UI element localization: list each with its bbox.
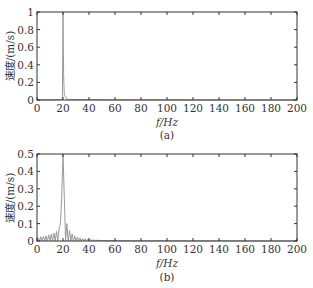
- x-tick-label: 140: [209, 243, 229, 255]
- panel-a-ticks: [37, 12, 297, 100]
- y-tick-label: 0.2: [17, 76, 34, 88]
- panel-b-y-axis-label: 速度/(m/s): [4, 173, 16, 224]
- figure: 020406080100120140160180200 00.20.40.60.…: [0, 0, 313, 288]
- y-tick-label: 0.8: [17, 24, 34, 36]
- y-tick-label: 0.4: [17, 165, 34, 177]
- x-tick-label: 60: [108, 243, 121, 255]
- x-tick-label: 40: [82, 102, 95, 114]
- y-tick-label: 0.4: [17, 59, 34, 71]
- x-tick-label: 80: [134, 243, 147, 255]
- panel-b-x-axis-label: f/Hz: [155, 257, 179, 269]
- panel-b-caption: (b): [160, 271, 175, 283]
- x-tick-label: 20: [56, 102, 69, 114]
- x-tick-label: 100: [157, 243, 177, 255]
- panel-a-y-tick-labels: 00.20.40.60.81: [17, 6, 34, 106]
- x-tick-label: 0: [34, 102, 41, 114]
- panel-a-chart: 020406080100120140160180200 00.20.40.60.…: [4, 6, 307, 141]
- x-tick-label: 180: [261, 243, 281, 255]
- x-tick-label: 120: [183, 102, 203, 114]
- x-tick-label: 200: [287, 102, 307, 114]
- panel-b-y-tick-labels: 00.10.20.30.40.5: [17, 148, 34, 247]
- y-tick-label: 0.2: [17, 200, 34, 212]
- panel-b-x-tick-labels: 020406080100120140160180200: [34, 243, 307, 255]
- panel-b-spectrum-line: [37, 154, 297, 241]
- y-tick-label: 0: [27, 94, 34, 106]
- panel-b-ticks: [37, 154, 297, 241]
- x-tick-label: 100: [157, 102, 177, 114]
- panel-a-y-axis-label: 速度/(m/s): [4, 31, 16, 82]
- panel-a-x-tick-labels: 020406080100120140160180200: [34, 102, 307, 114]
- panel-b-frame: [37, 154, 297, 241]
- x-tick-label: 20: [56, 243, 69, 255]
- panel-a-spectrum-line: [37, 12, 297, 100]
- x-tick-label: 60: [108, 102, 121, 114]
- x-tick-label: 120: [183, 243, 203, 255]
- x-tick-label: 140: [209, 102, 229, 114]
- y-tick-label: 0: [27, 235, 34, 247]
- x-tick-label: 0: [34, 243, 41, 255]
- y-tick-label: 0.3: [17, 183, 34, 195]
- x-tick-label: 160: [235, 243, 255, 255]
- x-tick-label: 200: [287, 243, 307, 255]
- panel-a-frame: [37, 12, 297, 100]
- panel-b-chart: 020406080100120140160180200 00.10.20.30.…: [4, 148, 307, 283]
- panel-a-caption: (a): [160, 129, 174, 141]
- y-tick-label: 0.5: [17, 148, 34, 160]
- x-tick-label: 40: [82, 243, 95, 255]
- x-tick-label: 180: [261, 102, 281, 114]
- panel-a-x-axis-label: f/Hz: [155, 116, 179, 128]
- y-tick-label: 1: [27, 6, 34, 18]
- x-tick-label: 80: [134, 102, 147, 114]
- y-tick-label: 0.1: [17, 218, 34, 230]
- x-tick-label: 160: [235, 102, 255, 114]
- y-tick-label: 0.6: [17, 41, 34, 53]
